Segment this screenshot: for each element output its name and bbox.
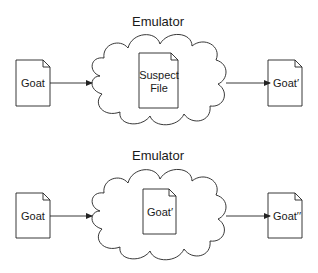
output-file-label: Goat′ <box>268 77 304 90</box>
input-file-label: Goat <box>16 77 50 90</box>
suspect-file-label-line2: File <box>139 82 179 95</box>
suspect-file-label-line1: Suspect <box>139 69 179 82</box>
suspect-file-label: Suspect File <box>139 69 179 95</box>
emulator-title: Emulator <box>98 14 218 29</box>
emulator-title: Emulator <box>98 148 218 163</box>
input-file-label: Goat <box>16 210 50 223</box>
diagram-canvas <box>0 0 318 273</box>
output-file-label: Goat′′ <box>268 210 306 223</box>
infected-goat-label: Goat′ <box>143 206 177 219</box>
